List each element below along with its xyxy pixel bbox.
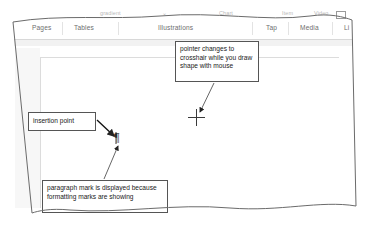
crosshair-cursor-icon [188,109,205,126]
paragraph-mark-pilcrow: ¶ [114,131,119,143]
ribbon-group-tables[interactable]: Tables [74,24,94,31]
ribbon-separator [62,22,63,35]
ribbon-group-labels-row: Pages Tables Illustrations Tap Media Li [14,24,352,40]
ribbon-group-pages[interactable]: Pages [32,24,51,31]
ribbon-group-illustrations[interactable]: Illustrations [158,24,193,31]
ribbon-label-video[interactable]: Video [314,10,328,16]
ribbon-separator [288,22,289,35]
ribbon-separator [252,22,253,35]
ribbon-group-media[interactable]: Media [300,24,319,31]
ribbon-label-chevron[interactable]: ⌄ [162,10,167,16]
screenshot-canvas: gradient ⌄ Chart Item Video Pages Tables… [0,0,375,234]
video-icon[interactable] [336,11,346,19]
callout-paragraph-mark: paragraph mark is displayed because form… [42,180,168,213]
ribbon-label-chart[interactable]: Chart [219,10,233,16]
ribbon-command-labels-row: gradient ⌄ Chart Item Video [14,10,352,24]
ribbon-separator [332,22,333,35]
crosshair-vertical-stroke [196,109,197,126]
ribbon-label-gradient[interactable]: gradient [100,10,121,16]
ribbon-label-item[interactable]: Item [282,10,293,16]
ribbon-group-tap[interactable]: Tap [266,24,277,31]
callout-insertion-point: insertion point [28,112,96,131]
callout-pointer-crosshair: pointer changes to crosshair while you d… [175,41,259,82]
ribbon-group-links[interactable]: Li [344,24,349,31]
ribbon-separator [118,22,119,35]
